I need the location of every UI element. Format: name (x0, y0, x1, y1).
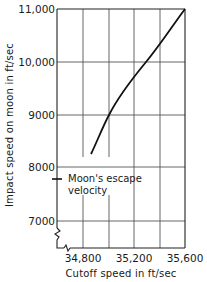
escape-velocity-label-line2: velocity (68, 185, 107, 196)
plot-frame (55, 9, 185, 251)
x-axis-label: Cutoff speed in ft/sec (65, 268, 176, 279)
escape-velocity-label-line1: Moon's escape (68, 173, 142, 184)
y-tick-labels: 11,000 10,000 9000 8000 7000 (18, 3, 55, 227)
x-tick-labels: 34,800 35,200 35,600 (65, 252, 204, 264)
data-curve (91, 9, 185, 154)
y-axis-break (55, 228, 64, 248)
x-tick-34800: 34,800 (65, 252, 102, 264)
x-tick-35200: 35,200 (116, 252, 153, 264)
y-tick-8000: 8000 (28, 161, 55, 173)
y-tick-9000: 9000 (28, 109, 55, 121)
gridlines (57, 9, 185, 248)
y-tick-10000: 10,000 (18, 56, 55, 68)
y-tick-7000: 7000 (28, 215, 55, 227)
chart: Moon's escape velocity 11,000 10,000 900… (0, 0, 207, 282)
x-tick-35600: 35,600 (167, 252, 204, 264)
y-axis-label: Impact speed on moon in ft/sec (4, 43, 15, 207)
x-axis-break (64, 245, 70, 251)
y-tick-11000: 11,000 (18, 3, 55, 15)
